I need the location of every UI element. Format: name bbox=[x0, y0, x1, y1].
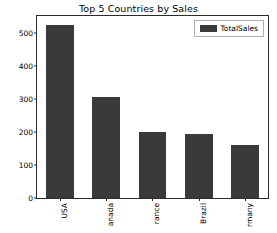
y-tick-label: 100 bbox=[19, 160, 37, 169]
y-tick-label: 200 bbox=[19, 127, 37, 136]
x-tick-mark bbox=[152, 198, 153, 201]
chart-legend: TotalSales bbox=[194, 20, 264, 37]
bar-group: rmany bbox=[222, 16, 268, 198]
y-tick-label: 0 bbox=[28, 194, 37, 203]
chart-figure: Top 5 Countries by Sales Total Sales 010… bbox=[0, 0, 277, 233]
y-tick-label: 300 bbox=[19, 94, 37, 103]
chart-title: Top 5 Countries by Sales bbox=[0, 3, 277, 14]
x-tick-label: rmany bbox=[245, 203, 254, 227]
plot-area: Total Sales 0100200300400500 USAanadaran… bbox=[36, 15, 269, 199]
legend-swatch-totalsales bbox=[200, 25, 217, 32]
bar-group: Brazil bbox=[176, 16, 222, 198]
bar-group: anada bbox=[83, 16, 129, 198]
bar bbox=[92, 97, 120, 198]
x-tick-label: rance bbox=[152, 203, 161, 224]
y-tick-label: 400 bbox=[19, 61, 37, 70]
x-tick-label: anada bbox=[106, 203, 115, 226]
bar bbox=[139, 132, 167, 198]
x-tick-label: Brazil bbox=[199, 203, 208, 224]
x-tick-mark bbox=[199, 198, 200, 201]
y-tick-label: 500 bbox=[19, 28, 37, 37]
bar bbox=[231, 145, 259, 198]
x-tick-mark bbox=[60, 198, 61, 201]
bar bbox=[46, 25, 74, 198]
bar-series: USAanadaranceBrazilrmany bbox=[37, 16, 268, 198]
legend-label-totalsales: TotalSales bbox=[221, 24, 258, 33]
bar-group: rance bbox=[129, 16, 175, 198]
x-tick-label: USA bbox=[60, 203, 69, 219]
bar-group: USA bbox=[37, 16, 83, 198]
x-tick-mark bbox=[106, 198, 107, 201]
bar bbox=[185, 134, 213, 198]
x-tick-mark bbox=[245, 198, 246, 201]
